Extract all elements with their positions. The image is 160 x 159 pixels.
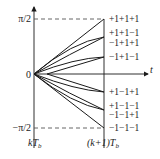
phase-trellis-diagram: π/2 0 −π/2 t kTb (k+1)Tb +1+1+1 +1+1−1 −… bbox=[0, 0, 160, 159]
phase-label: −1−1+1 bbox=[109, 110, 140, 120]
label-k1Tb: (k+1)Tb bbox=[87, 137, 119, 150]
label-kTb: kTb bbox=[28, 137, 42, 150]
path-m1m1p1 bbox=[34, 74, 104, 110]
phase-label: −1−1−1 bbox=[109, 123, 140, 133]
path-p1m1p1 bbox=[34, 74, 104, 92]
phase-label: −1+1+1 bbox=[109, 38, 140, 48]
label-zero: 0 bbox=[26, 69, 31, 80]
phase-paths-lower bbox=[34, 74, 104, 128]
phase-label: +1+1+1 bbox=[109, 14, 140, 24]
path-inner-upper bbox=[47, 57, 104, 74]
label-pi-half: π/2 bbox=[18, 13, 31, 24]
phase-label: +1−1+1 bbox=[109, 87, 140, 97]
label-neg-pi-half: −π/2 bbox=[13, 122, 31, 133]
phase-label: +1+1−1 bbox=[109, 28, 140, 38]
label-t: t bbox=[150, 64, 153, 75]
phase-paths-upper bbox=[34, 19, 104, 74]
path-m1p1p1 bbox=[34, 37, 104, 74]
phase-label: −1+1−1 bbox=[109, 52, 140, 62]
